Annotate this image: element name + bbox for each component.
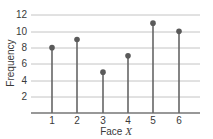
stem-marker bbox=[125, 53, 131, 59]
stem-marker bbox=[74, 37, 80, 43]
x-tick-1: 1 bbox=[46, 116, 58, 126]
stem-marker bbox=[100, 69, 106, 75]
y-axis-label: Frequency bbox=[6, 38, 16, 88]
stem-chart: 12 10 8 6 4 2 1 2 3 4 5 6 Frequency Face… bbox=[0, 0, 213, 139]
x-axis-label-variable: X bbox=[125, 125, 132, 137]
gridlines bbox=[31, 15, 200, 97]
y-tick-2: 2 bbox=[13, 92, 27, 102]
stem-marker bbox=[176, 29, 182, 35]
stems bbox=[49, 20, 182, 113]
y-tick-10: 10 bbox=[13, 27, 27, 37]
x-tick-2: 2 bbox=[71, 116, 83, 126]
x-tick-5: 5 bbox=[147, 116, 159, 126]
y-tick-12: 12 bbox=[13, 10, 27, 20]
stem-marker bbox=[49, 45, 55, 51]
x-tick-3: 3 bbox=[97, 116, 109, 126]
x-axis-label-text: Face bbox=[100, 126, 125, 137]
x-tick-6: 6 bbox=[173, 116, 185, 126]
x-axis-label: Face X bbox=[94, 126, 138, 137]
stem-marker bbox=[150, 20, 156, 26]
